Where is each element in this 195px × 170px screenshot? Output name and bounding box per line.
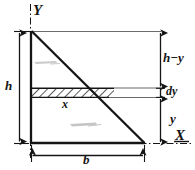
hatched-strip	[31, 89, 114, 98]
strip-thickness-label: dy	[166, 85, 177, 97]
figure-container: Y X h b h−y dy y x	[0, 0, 195, 170]
upper-dimension-label: h−y	[163, 51, 184, 64]
base-dimension-label: b	[83, 153, 90, 166]
triangle-hypotenuse	[32, 31, 145, 143]
y-axis-label: Y	[33, 3, 42, 18]
lower-dimension-label: y	[170, 112, 176, 125]
scan-artifact-lower	[70, 123, 101, 127]
strip-width-label: x	[62, 98, 68, 110]
x-axis-label: X	[175, 128, 185, 143]
height-dimension-label: h	[5, 79, 12, 92]
scan-artifact-upper	[34, 61, 60, 64]
